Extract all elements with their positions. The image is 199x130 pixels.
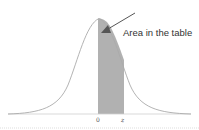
tick-label-z: z (121, 116, 124, 123)
tick-label-zero: 0 (96, 116, 100, 123)
annotation-label: Area in the table (123, 27, 192, 38)
normal-curve-diagram (0, 0, 199, 130)
